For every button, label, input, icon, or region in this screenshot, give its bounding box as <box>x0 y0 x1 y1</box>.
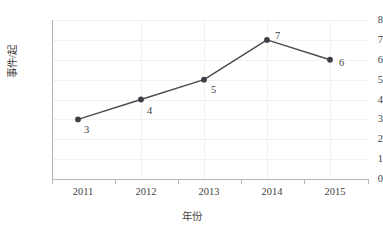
y-axis-tick-label: 3 <box>339 114 383 124</box>
gridline-horizontal <box>52 139 368 140</box>
x-axis-tick-label: 2011 <box>53 186 113 198</box>
data-point-label: 7 <box>275 31 280 41</box>
line-chart: 8 7 6 5 4 3 2 1 0 2011 2012 2013 2014 20… <box>0 0 383 238</box>
gridline-horizontal <box>52 60 368 61</box>
gridline-horizontal <box>52 119 368 120</box>
y-axis-tick-label: 5 <box>339 75 383 85</box>
x-axis-tick-label: 2014 <box>242 186 302 198</box>
gridline-vertical <box>330 20 331 179</box>
gridline-vertical <box>204 20 205 179</box>
x-axis-tick <box>178 180 179 184</box>
x-axis-title: 年份 <box>0 208 383 223</box>
gridline-horizontal <box>52 80 368 81</box>
data-point-label: 5 <box>211 85 216 95</box>
gridline-vertical <box>267 20 268 179</box>
gridline-horizontal <box>52 100 368 101</box>
x-axis-tick <box>304 180 305 184</box>
x-axis-tick-label: 2012 <box>116 186 176 198</box>
x-axis-line <box>52 179 369 180</box>
plot-area <box>52 20 368 179</box>
y-axis-tick-label: 1 <box>339 154 383 164</box>
gridline-horizontal <box>52 40 368 41</box>
x-axis-tick-label: 2015 <box>305 186 365 198</box>
y-axis-tick-label: 2 <box>339 134 383 144</box>
y-axis-tick-label: 8 <box>339 15 383 25</box>
gridline-horizontal <box>52 159 368 160</box>
y-axis-tick-label: 4 <box>339 95 383 105</box>
gridline-horizontal <box>52 20 368 21</box>
y-axis-tick-label: 7 <box>339 35 383 45</box>
y-axis-tick-label: 0 <box>339 174 383 184</box>
data-point-label: 6 <box>339 58 344 68</box>
y-axis-tick-label: 6 <box>339 55 383 65</box>
x-axis-tick <box>52 180 53 184</box>
y-axis-line <box>52 20 53 180</box>
data-point-label: 3 <box>84 125 89 135</box>
y-axis-title: 事件/起 <box>4 45 19 78</box>
gridline-vertical <box>141 20 142 179</box>
data-point-label: 4 <box>147 106 152 116</box>
x-axis-tick <box>115 180 116 184</box>
x-axis-tick <box>241 180 242 184</box>
x-axis-tick-label: 2013 <box>179 186 239 198</box>
